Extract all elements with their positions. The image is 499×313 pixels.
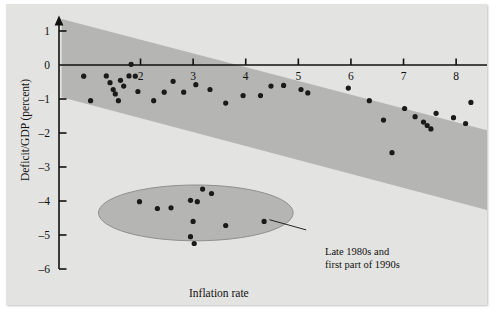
y-tick-label: 1 — [44, 25, 50, 37]
data-point — [135, 89, 140, 94]
annotation-line-2: first part of 1990s — [325, 258, 400, 271]
data-point — [468, 100, 473, 105]
data-point — [121, 84, 126, 89]
cluster-annotation: Late 1980s and first part of 1990s — [325, 245, 400, 271]
data-point — [281, 83, 286, 88]
data-point — [346, 86, 351, 91]
data-point — [209, 191, 214, 196]
data-point — [188, 198, 193, 203]
data-point — [262, 219, 267, 224]
data-point — [389, 150, 394, 155]
data-point — [451, 115, 456, 120]
data-point — [126, 73, 131, 78]
data-point — [428, 126, 433, 131]
data-point — [88, 98, 93, 103]
data-point — [81, 74, 86, 79]
data-point — [113, 91, 118, 96]
data-point — [129, 62, 134, 67]
data-point — [305, 90, 310, 95]
data-point — [193, 82, 198, 87]
y-tick-label: –6 — [38, 263, 51, 275]
x-tick-label: 2 — [138, 70, 144, 82]
data-point — [116, 98, 121, 103]
y-tick-label: –3 — [38, 161, 51, 173]
y-tick-label: –1 — [38, 93, 51, 105]
data-point — [133, 74, 138, 79]
data-point — [200, 187, 205, 192]
data-point — [298, 87, 303, 92]
data-point — [268, 84, 273, 89]
data-point — [402, 106, 407, 111]
data-point — [463, 121, 468, 126]
data-point — [195, 199, 200, 204]
x-tick-label: 8 — [453, 70, 459, 82]
x-axis-title: Inflation rate — [189, 287, 249, 299]
data-point — [223, 101, 228, 106]
data-point — [258, 93, 263, 98]
y-tick-label: –5 — [38, 229, 51, 241]
data-point — [168, 205, 173, 210]
data-point — [413, 114, 418, 119]
data-point — [381, 118, 386, 123]
scatter-plot: 2345678910–1–2–3–4–5–6 — [6, 4, 487, 305]
annotation-line-1: Late 1980s and — [325, 245, 400, 258]
data-point — [104, 73, 109, 78]
data-point — [171, 79, 176, 84]
chart-screenshot: 2345678910–1–2–3–4–5–6 Deficit/GDP (perc… — [0, 0, 499, 313]
data-point — [137, 199, 142, 204]
data-point — [223, 223, 228, 228]
x-tick-label: 3 — [190, 70, 196, 82]
y-tick-label: –4 — [38, 195, 51, 207]
y-axis-title: Deficit/GDP (percent) — [19, 55, 31, 205]
data-point — [191, 219, 196, 224]
data-point — [155, 206, 160, 211]
data-point — [192, 241, 197, 246]
data-point — [162, 90, 167, 95]
y-tick-label: 0 — [44, 59, 50, 71]
x-tick-label: 6 — [348, 70, 354, 82]
x-tick-label: 7 — [401, 70, 407, 82]
data-point — [107, 80, 112, 85]
data-point — [434, 111, 439, 116]
chart-page: 2345678910–1–2–3–4–5–6 Deficit/GDP (perc… — [6, 4, 487, 305]
data-point — [207, 87, 212, 92]
data-point — [181, 90, 186, 95]
y-tick-label: –2 — [38, 127, 51, 139]
x-tick-label: 5 — [295, 70, 301, 82]
data-point — [151, 98, 156, 103]
data-point — [241, 93, 246, 98]
cluster-ellipse — [99, 185, 294, 241]
data-point — [118, 78, 123, 83]
x-tick-label: 4 — [243, 70, 249, 82]
data-point — [367, 98, 372, 103]
data-point — [188, 234, 193, 239]
